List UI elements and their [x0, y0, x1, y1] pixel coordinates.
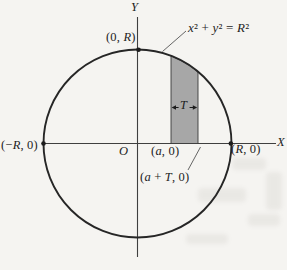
a-plus-t-leader-line	[188, 147, 201, 170]
point-dot-top	[136, 48, 141, 53]
figure-canvas: Y X x² + y² = R² (0, R) (−R, 0) O (a, 0)…	[0, 0, 287, 270]
top-point-label: (0, R)	[106, 31, 136, 44]
a-plus-t-point-label: (a + T, 0)	[140, 171, 189, 184]
x-axis-label: X	[277, 136, 285, 149]
diagram-svg	[0, 0, 287, 270]
left-point-label: (−R, 0)	[1, 139, 38, 152]
y-axis-label: Y	[131, 1, 138, 14]
circle-equation-label: x² + y² = R²	[188, 21, 249, 35]
origin-label: O	[119, 145, 128, 158]
a-point-label: (a, 0)	[151, 145, 179, 158]
equation-leader-line	[163, 31, 187, 52]
point-dot-left	[41, 141, 46, 146]
right-point-label: (R, 0)	[231, 143, 261, 156]
strip-width-label: T	[180, 99, 187, 112]
